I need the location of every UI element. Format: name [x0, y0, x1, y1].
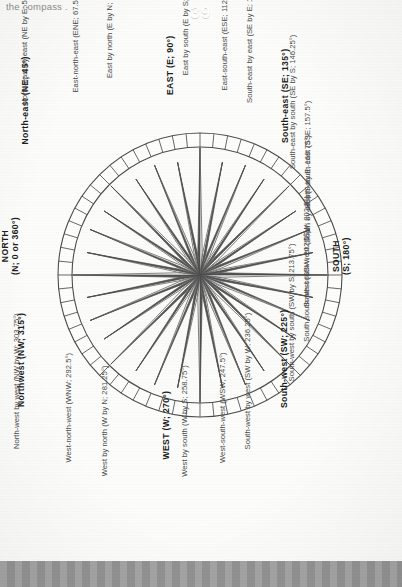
compass-label-east: EAST (E; 90°)	[165, 35, 175, 95]
compass-label-line: (S; 180°)	[342, 237, 352, 275]
compass-label-line: (N; 0 or 360°)	[10, 217, 20, 275]
compass-rose-diagram	[0, 0, 402, 587]
compass-rose-svg	[0, 0, 402, 587]
compass-label-line: SOUTH	[331, 237, 341, 275]
compass-label-west-by-north: West by north (W by N; 281.25°)	[100, 366, 109, 477]
compass-label-north: NORTH(N; 0 or 360°)	[0, 217, 21, 275]
compass-label-west-south-west: West-south-west (WSW; 247.5°)	[218, 352, 227, 463]
compass-label-south-south-west: South-south-west (SSW; 202.5°)	[302, 231, 311, 342]
page-footer-bar	[0, 561, 402, 587]
compass-label-west-by-south: West by south (W by S; 258.75°)	[180, 365, 189, 477]
compass-label-west-north-west: West-north-west (WNW; 292.5°)	[63, 352, 72, 462]
scanned-book-page: the compass . NORTH(N; 0 or 360°)North b…	[0, 0, 402, 587]
page-number: 39	[0, 3, 402, 23]
compass-label-south-east-by-south: South-east by south (SE by S; 146.25°)	[287, 34, 296, 169]
compass-label-south-west: South-west (SW; 225°)	[279, 310, 289, 408]
compass-label-north-west: Northwest (NW; 315°)	[16, 313, 26, 407]
compass-label-south: SOUTH(S; 180°)	[331, 237, 352, 275]
compass-label-west: WEST (W; 270°)	[161, 391, 171, 460]
compass-label-line: NORTH	[0, 217, 10, 275]
compass-label-south-west-by-west: South-west by west (SW by W; 236.25°)	[243, 312, 252, 449]
